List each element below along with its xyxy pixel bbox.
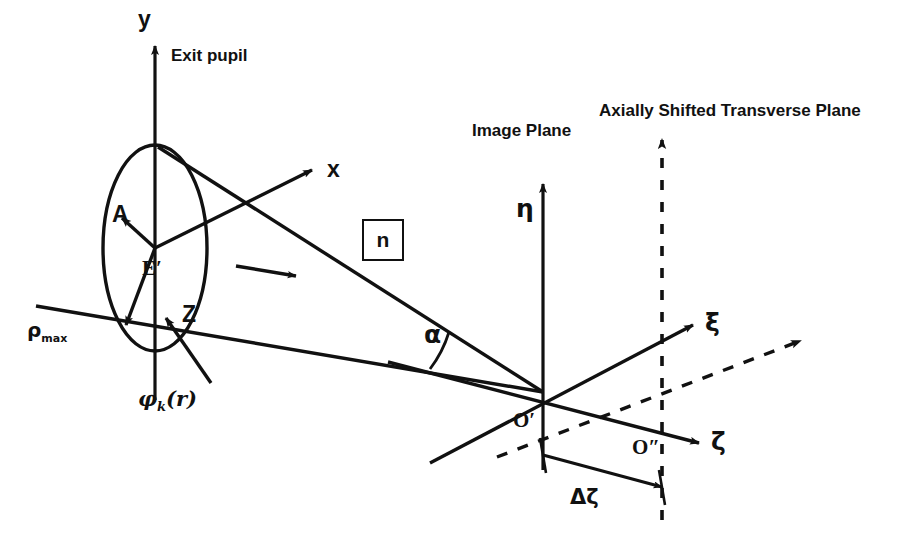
z-axis-label: Z — [182, 303, 196, 326]
image-origin-label: O′ — [513, 410, 535, 431]
marginal-ray-line — [158, 147, 543, 392]
x-axis-line — [155, 170, 312, 248]
rho-symbol: ρ — [27, 318, 41, 342]
image-plane-label: Image Plane — [472, 122, 571, 139]
phi-subscript: k — [157, 399, 166, 414]
optical-diagram-figure: y Exit pupil x A E′ Z ρmax φk(r) n α Ima… — [0, 0, 904, 558]
delta-zeta-label: Δζ — [570, 487, 599, 508]
z-axis-line — [36, 266, 543, 392]
diagram-canvas — [0, 0, 904, 558]
refractive-index-box: n — [362, 219, 404, 261]
x-axis-label: x — [327, 158, 340, 181]
rho-subscript: max — [41, 332, 67, 345]
rho-max-label: ρmax — [27, 320, 67, 344]
xi-axis-label: ξ — [705, 310, 720, 335]
shifted-origin-label: O″ — [632, 437, 660, 458]
phi-symbol: φ — [138, 386, 157, 411]
exit-pupil-label: Exit pupil — [171, 47, 248, 64]
phase-function-label: φk(r) — [138, 388, 197, 413]
eta-axis-label: η — [516, 196, 534, 221]
y-axis-label: y — [138, 8, 151, 31]
alpha-angle-label: α — [424, 322, 441, 347]
phi-argument: (r) — [166, 386, 197, 411]
shifted-plane-label: Axially Shifted Transverse Plane — [599, 102, 861, 119]
amplitude-vector-label: A — [112, 203, 129, 226]
refractive-index-label: n — [377, 228, 390, 252]
pupil-center-label: E′ — [142, 258, 162, 279]
zeta-axis-label: ζ — [711, 429, 726, 454]
